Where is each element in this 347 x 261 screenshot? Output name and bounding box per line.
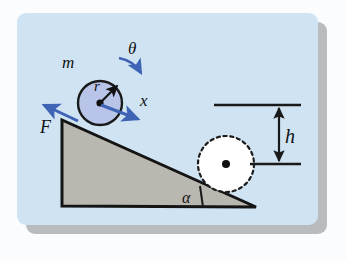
figure-container: h α r x m θ F	[0, 0, 347, 261]
label-mass: m	[62, 53, 74, 72]
label-force: F	[39, 117, 52, 137]
final-cylinder-center-dot	[222, 160, 230, 168]
label-incline-angle: α	[182, 189, 191, 206]
label-radius: r	[94, 78, 100, 94]
label-height: h	[285, 125, 295, 147]
label-angle-rotation: θ	[128, 39, 136, 58]
physics-diagram-svg: h α r x m θ F	[0, 0, 347, 261]
label-displacement: x	[139, 91, 148, 110]
